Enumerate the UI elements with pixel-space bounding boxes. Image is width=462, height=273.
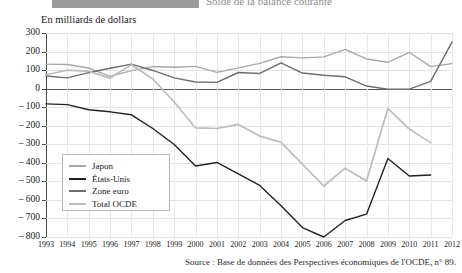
- legend-swatch-icon: [69, 203, 86, 205]
- y-axis-tick-label: 100: [2, 65, 40, 75]
- legend-label: Total OCDE: [92, 199, 137, 209]
- x-axis-tick-label: 2011: [420, 241, 442, 249]
- chart-title: Solde de la balance courante: [206, 0, 332, 7]
- legend-item: Zone euro: [69, 185, 129, 197]
- y-axis-tick-label: – 200: [2, 121, 40, 131]
- y-gridline: [46, 237, 452, 238]
- legend-label: Zone euro: [92, 186, 129, 196]
- legend-swatch-icon: [69, 165, 86, 167]
- x-axis-tick-label: 2012: [441, 241, 462, 249]
- legend: JaponÉtats-UnisZone euroTotal OCDE: [62, 154, 170, 211]
- x-axis-tick-label: 2003: [249, 241, 271, 249]
- x-axis-tick-label: 2009: [377, 241, 399, 249]
- x-axis-tick-label: 1999: [163, 241, 185, 249]
- x-axis-tick-label: 2000: [185, 241, 207, 249]
- y-axis-tick-label: – 600: [2, 195, 40, 205]
- legend-item: Total OCDE: [69, 198, 137, 210]
- x-axis-tick-label: 1998: [142, 241, 164, 249]
- legend-label: États-Unis: [92, 174, 130, 184]
- y-axis-tick-label: 300: [2, 28, 40, 38]
- figure-container: Solde de la balance courante En milliard…: [0, 0, 462, 273]
- x-axis-tick-label: 2004: [270, 241, 292, 249]
- x-axis-tick-label: 1997: [120, 241, 142, 249]
- y-axis-tick-label: – 400: [2, 158, 40, 168]
- legend-swatch-icon: [69, 190, 86, 192]
- y-axis-tick-label: – 300: [2, 139, 40, 149]
- y-axis-tick-label: 0: [2, 84, 40, 94]
- title-color-block: [52, 0, 199, 8]
- title-strip: Solde de la balance courante: [0, 0, 462, 9]
- x-axis-tick-label: 1995: [78, 241, 100, 249]
- y-axis-unit-label: En milliards de dollars: [41, 14, 136, 25]
- x-axis-tick-label: 1996: [99, 241, 121, 249]
- x-axis-tick-label: 2001: [206, 241, 228, 249]
- legend-item: Japon: [69, 160, 113, 172]
- y-axis-tick-label: – 700: [2, 213, 40, 223]
- x-axis-tick-label: 2010: [398, 241, 420, 249]
- x-axis-tick-label: 1994: [56, 241, 78, 249]
- source-note: Source : Base de données des Perspective…: [0, 257, 456, 267]
- y-axis-tick-label: – 100: [2, 102, 40, 112]
- y-axis-tick-label: 200: [2, 47, 40, 57]
- x-axis-tick-label: 2002: [227, 241, 249, 249]
- x-axis-tick-label: 2005: [291, 241, 313, 249]
- legend-item: États-Unis: [69, 173, 130, 185]
- legend-swatch-icon: [69, 178, 86, 180]
- y-axis-tick-label: – 500: [2, 176, 40, 186]
- x-axis-tick-label: 2006: [313, 241, 335, 249]
- x-axis-labels: 1993199419951996199719981999200020012002…: [0, 241, 462, 255]
- y-axis-labels: 3002001000– 100– 200– 300– 400– 500– 600…: [0, 0, 40, 273]
- legend-label: Japon: [92, 161, 113, 171]
- x-axis-tick-label: 1993: [35, 241, 57, 249]
- x-axis-tick-label: 2007: [334, 241, 356, 249]
- x-axis-tick-label: 2008: [356, 241, 378, 249]
